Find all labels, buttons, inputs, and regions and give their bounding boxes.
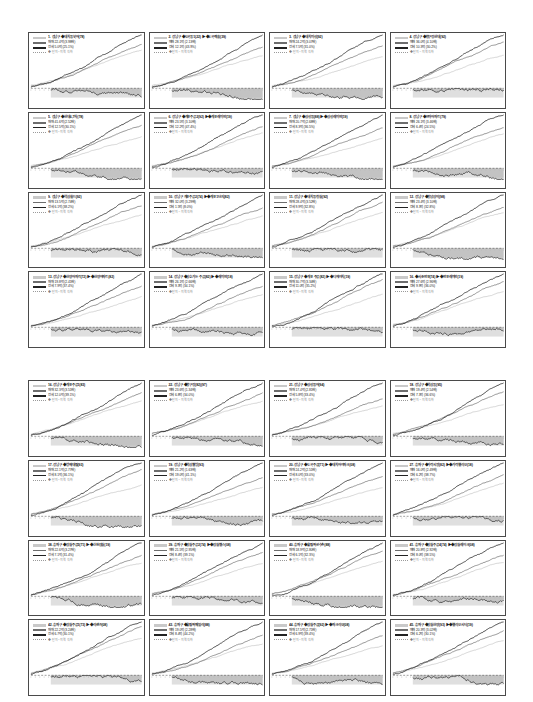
chart-panel[interactable]: 7. 강남구 ◆삼성동(88) ▶ ◆삼성래미안(19)매매 20.7억 (2.…	[269, 112, 386, 189]
panel-plot	[270, 272, 385, 347]
chart-panel[interactable]: 8. 강남구 ◆은마아파트(79)매매 26.1억 (3.46배)전세 6.4억…	[390, 112, 507, 189]
panel-plot	[391, 193, 506, 268]
chart-panel[interactable]: 16. 강남구 ◆개포주공1(83)매매 32.3억 (3.51배)전세 12.…	[28, 380, 145, 457]
panel-plot	[270, 541, 385, 616]
figure-page: 1. 강남구 ◆대치동북아(78)매매 22.4억 (3.98배)전세 5.0억…	[0, 0, 533, 702]
panel-plot	[391, 113, 506, 188]
chart-panel[interactable]: 3. 강남구 ◆대치미성(92)매매 24.2억 (3.07배)전세 7.5억 …	[269, 32, 386, 109]
panel-plot	[29, 272, 144, 347]
chart-panel[interactable]: 5. 강남구 ◆현대6,7차(78)매매 41.6억 (2.52배)전세 12.…	[28, 112, 145, 189]
chart-panel[interactable]: 10. 강남구 개포주공2(74) ▶ ◆개포1단지(82)매매 32.0억 (…	[149, 192, 266, 269]
panel-plot	[29, 381, 144, 456]
chart-panel[interactable]: 45. 송파구 ◆잠실한양(93) ▶ ◆헬리오시티(19)매매 20.3억 (…	[390, 619, 507, 696]
panel-grid-upper: 1. 강남구 ◆대치동북아(78)매매 22.4억 (3.98배)전세 5.0억…	[28, 32, 506, 348]
panel-plot	[391, 620, 506, 695]
panel-plot	[29, 33, 144, 108]
chart-panel[interactable]: 18. 강남구 ◆역삼동(95)매매 19.4억 (2.54배)전세 7.3억 …	[390, 380, 507, 457]
panel-plot	[270, 33, 385, 108]
panel-grid-lower: 16. 강남구 ◆개포주공1(83)매매 32.3억 (3.51배)전세 12.…	[28, 380, 506, 696]
chart-panel[interactable]: 40. 송파구 ◆올림픽선수촌(88)매매 18.9억 (2.80배)전세 6.…	[269, 540, 386, 617]
panel-plot	[150, 461, 265, 536]
chart-panel[interactable]: 12. 강남구 ◆청담삼익(98)매매 23.4억 (3.10배)전세 8.3억…	[390, 192, 507, 269]
chart-panel[interactable]: 22. 강남구 ◆압구정(82)(97)매매 23.6억 (1.34배)전세 6…	[149, 380, 266, 457]
panel-plot	[391, 33, 506, 108]
chart-panel[interactable]: 21. 강남구 ◆삼성동아(94)매매 17.4억 (2.81배)전세 5.8억…	[269, 380, 386, 457]
chart-panel[interactable]: 43. 송파구 ◆올림픽패밀리(88)매매 19.0억 (2.28배)전세 8.…	[149, 619, 266, 696]
panel-plot	[270, 461, 385, 536]
panel-block-upper: 1. 강남구 ◆대치동북아(78)매매 22.4억 (3.98배)전세 5.0억…	[28, 32, 506, 348]
panel-plot	[270, 193, 385, 268]
chart-panel[interactable]: 39. 송파구 ◆잠실주공2(74) ▶ ◆잠실엘스(08)매매 21.5억 (…	[149, 540, 266, 617]
panel-plot	[270, 381, 385, 456]
panel-plot	[391, 541, 506, 616]
chart-panel[interactable]: 9. 강남구 ◆역삼월드(92)매매 13.5억 (2.74배)전세 6.1억 …	[28, 192, 145, 269]
chart-panel[interactable]: 38. 송파구 ◆잠실주공5(71) ▶ ◆신천잠실(19)매매 22.6억 (…	[28, 540, 145, 617]
chart-panel[interactable]: 6. 강남구 ◆개포주공2(92) ▶ ◆개포래미안(19)매매 23.5억 (…	[149, 112, 266, 189]
chart-panel[interactable]: 17. 강남구 ◆방배대림(93)매매 22.1억 (2.77배)전세 8.1억…	[28, 460, 145, 537]
chart-panel[interactable]: 14. 강남구 ◆삼호가든 주공(82) ▶ ◆래미안(18)매매 26.1억 …	[149, 271, 266, 348]
panel-plot	[29, 541, 144, 616]
panel-plot	[150, 620, 265, 695]
chart-panel[interactable]: 19. 강남구 ◆역삼웰빙(93)매매 21.2억 (1.63배)전세 19.0…	[149, 460, 266, 537]
chart-panel[interactable]: 44. 송파구 ◆잠실주공(92) ▶ ◆파크리오(08)매매 17.5억 (2…	[269, 619, 386, 696]
chart-panel[interactable]: 2. 강남구 ◆도곡동1(22) ▶ ◆도곡렉슬(39)매매 28.1억 (2.…	[149, 32, 266, 109]
panel-plot	[29, 461, 144, 536]
panel-plot	[150, 193, 265, 268]
panel-plot	[29, 620, 144, 695]
chart-panel[interactable]: 4. 강남구 ◆압구정현대(92)매매 36.0억 (4.10배)전세 10.3…	[390, 32, 507, 109]
panel-plot	[391, 272, 506, 347]
chart-panel[interactable]: 11. 강남구 ◆대치동 청실(92)매매 28.4억 (3.52배)전세 9.…	[269, 192, 386, 269]
chart-panel[interactable]: 20. 강남구 ◆도곡주공(71) ▶ ◆대치아이파크(08)매매 24.2억 …	[269, 460, 386, 537]
panel-plot	[29, 113, 144, 188]
chart-panel[interactable]: 13. 강남구 ◆한양아파트(72) ▶ ◆한양아파트(82)매매 19.8억 …	[28, 271, 145, 348]
chart-panel[interactable]: 15. 강남구 ◆개포 주공(82) ▶ ◆디에이치(19)매매 30.7억 (…	[269, 271, 386, 348]
panel-plot	[391, 461, 506, 536]
panel-plot	[150, 541, 265, 616]
chart-panel[interactable]: 41. 송파구 ◆잠실주공4(74) ▶ ◆잠실레이크(08)매매 20.8억 …	[390, 540, 507, 617]
panel-plot	[391, 381, 506, 456]
panel-block-lower: 16. 강남구 ◆개포주공1(83)매매 32.3억 (3.51배)전세 12.…	[28, 380, 506, 696]
chart-panel[interactable]: 1. 강남구 ◆대치동북아(78)매매 22.4억 (3.98배)전세 5.0억…	[28, 32, 145, 109]
panel-plot	[150, 381, 265, 456]
panel-plot	[29, 193, 144, 268]
panel-plot	[270, 620, 385, 695]
chart-panel[interactable]: 16. ◆서초반포(74) ▶ ◆반포래미안(19)매매 27.6억 (2.96…	[390, 271, 507, 348]
chart-panel[interactable]: 27. 송파구 ◆가락시영(82) ▶ ◆가락헬리오(18)매매 16.0억 (…	[390, 460, 507, 537]
panel-plot	[270, 113, 385, 188]
panel-plot	[150, 272, 265, 347]
panel-plot	[150, 33, 265, 108]
chart-panel[interactable]: 42. 송파구 ◆잠실주공1(73) ▶ ◆리센츠(08)매매 22.2억 (3…	[28, 619, 145, 696]
panel-plot	[150, 113, 265, 188]
